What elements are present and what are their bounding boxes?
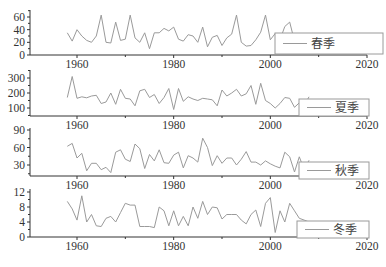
legend-label: 春季 [311, 37, 335, 51]
x-tick-label: 2020 [356, 179, 379, 191]
y-tick-label: 0 [19, 49, 25, 61]
legend-label: 冬季 [333, 222, 357, 237]
x-tick-label: 1980 [162, 179, 185, 191]
y-tick-label: 60 [14, 142, 26, 154]
x-tick-label: 1960 [66, 179, 89, 191]
y-tick-label: 30 [14, 159, 26, 171]
series-line [67, 77, 309, 110]
x-tick-label: 2020 [356, 119, 379, 131]
x-tick-label: 1960 [66, 240, 89, 252]
panel-spring: 02040601960198020002020春季 [14, 10, 384, 70]
panel-winter: 048121960198020002020冬季 [14, 186, 379, 252]
y-tick-label: 40 [14, 24, 26, 36]
series-line [67, 138, 309, 172]
x-tick-label: 2020 [356, 240, 379, 252]
series-line [67, 15, 309, 49]
y-tick-label: 20 [14, 36, 26, 48]
y-tick-label: 0 [19, 231, 25, 243]
x-tick-label: 2000 [259, 240, 282, 252]
x-tick-label: 1980 [162, 119, 185, 131]
legend: 冬季 [297, 221, 369, 238]
seasonal-precipitation-chart: 02040601960198020002020春季 10020030019601… [0, 0, 386, 267]
y-tick-label: 100 [8, 102, 26, 114]
x-tick-label: 1960 [66, 58, 89, 70]
y-tick-label: 4 [19, 216, 25, 228]
y-tick-label: 12 [14, 186, 26, 198]
y-tick-label: 90 [14, 124, 26, 136]
y-tick-label: 60 [14, 11, 26, 23]
legend-label: 夏季 [335, 101, 359, 115]
x-tick-label: 2000 [259, 119, 282, 131]
y-tick-label: 200 [8, 87, 26, 99]
x-tick-label: 1980 [162, 240, 185, 252]
x-tick-label: 1960 [66, 119, 89, 131]
x-tick-label: 2000 [259, 179, 282, 191]
legend: 秋季 [299, 162, 369, 179]
x-tick-label: 1980 [162, 58, 185, 70]
panel-summer: 1002003001960198020002020夏季 [8, 70, 379, 131]
y-tick-label: 300 [8, 72, 26, 84]
x-tick-label: 2000 [259, 58, 282, 70]
legend: 夏季 [299, 99, 369, 116]
legend: 春季 [275, 33, 383, 54]
y-tick-label: 8 [19, 201, 25, 213]
panel-autumn: 3060901960198020002020秋季 [14, 124, 379, 191]
legend-label: 秋季 [335, 164, 359, 178]
series-line [67, 196, 309, 233]
x-tick-label: 2020 [356, 58, 379, 70]
